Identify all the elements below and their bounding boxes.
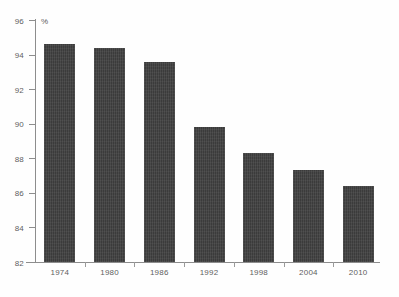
y-axis-tick-label: 84 xyxy=(15,223,24,232)
y-axis-tick-label: 88 xyxy=(15,154,24,163)
y-axis-tick-label: 94 xyxy=(15,51,24,60)
y-axis-tick-label: 86 xyxy=(15,189,24,198)
bar xyxy=(144,62,175,263)
x-axis-tick xyxy=(85,262,86,267)
bar xyxy=(94,48,125,262)
x-axis-tick xyxy=(333,262,334,267)
bar-chart-figure: % 9694929088868482 197419801986199219982… xyxy=(0,0,399,297)
y-axis-tick-label: 92 xyxy=(15,85,24,94)
x-axis-tick-label: 2010 xyxy=(338,268,378,277)
y-axis-tick-label: 82 xyxy=(15,258,24,267)
x-axis-tick-label: 1992 xyxy=(189,268,229,277)
x-axis-tick xyxy=(284,262,285,267)
bar xyxy=(243,153,274,262)
bar xyxy=(44,44,75,262)
bar xyxy=(343,186,374,262)
x-axis-line xyxy=(26,262,380,263)
x-axis-tick-label: 2004 xyxy=(288,268,328,277)
x-axis-tick-label: 1980 xyxy=(90,268,130,277)
x-axis-tick-label: 1998 xyxy=(239,268,279,277)
x-axis-tick xyxy=(234,262,235,267)
x-axis-tick xyxy=(184,262,185,267)
bar xyxy=(194,127,225,262)
bar xyxy=(293,170,324,262)
y-axis-tick-label: 90 xyxy=(15,120,24,129)
plot-area xyxy=(35,20,383,262)
x-axis-tick-label: 1986 xyxy=(139,268,179,277)
y-axis-tick-label: 96 xyxy=(15,16,24,25)
y-axis-tick: 82 xyxy=(29,262,36,263)
x-axis-tick xyxy=(134,262,135,267)
x-axis-tick-label: 1974 xyxy=(40,268,80,277)
